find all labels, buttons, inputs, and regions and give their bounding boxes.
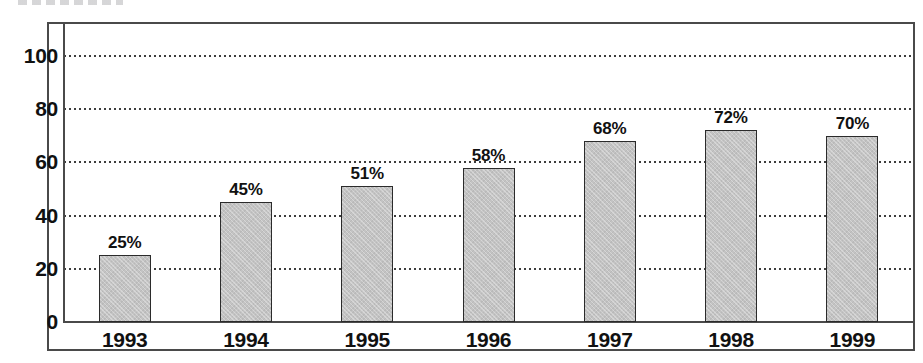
bar-value-label-1998: 72% [691,108,771,128]
bar-value-label-1997: 68% [570,119,650,139]
y-tick-label-0: 0 [2,310,58,334]
y-axis-tick-labels: 020406080100 [0,0,58,363]
x-tick-label-1998: 1998 [681,328,781,352]
x-tick-label-1993: 1993 [75,328,175,352]
x-tick-label-1999: 1999 [802,328,902,352]
y-tick-label-80: 80 [2,97,58,121]
bar-1998 [705,130,757,322]
bar-1995 [341,186,393,322]
bar-1997 [584,141,636,322]
bar-1993 [99,255,151,322]
x-tick-label-1997: 1997 [560,328,660,352]
bar-value-label-1994: 45% [206,180,286,200]
bar-1996 [463,168,515,322]
x-tick-label-1994: 1994 [196,328,296,352]
gridline-80 [64,108,914,110]
x-tick-label-1996: 1996 [439,328,539,352]
y-tick-label-20: 20 [2,257,58,281]
bar-1999 [826,136,878,322]
y-tick-label-100: 100 [2,44,58,68]
bar-chart-figure: 020406080100 25%45%51%58%68%72%70% 19931… [0,0,923,363]
y-tick-label-40: 40 [2,204,58,228]
y-tick-label-60: 60 [2,150,58,174]
bar-value-label-1999: 70% [812,114,892,134]
bar-value-label-1995: 51% [327,164,407,184]
bar-value-label-1996: 58% [449,146,529,166]
bar-1994 [220,202,272,322]
bar-value-label-1993: 25% [85,233,165,253]
y-axis-line [63,24,65,323]
gridline-100 [64,55,914,57]
x-tick-label-1995: 1995 [317,328,417,352]
